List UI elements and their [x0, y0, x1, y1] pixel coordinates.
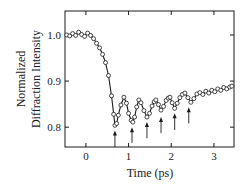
- data-series: [65, 30, 234, 127]
- arrow-head-icon: [187, 107, 191, 112]
- data-point-marker: [230, 84, 234, 88]
- data-point-marker: [116, 113, 120, 117]
- data-point-marker: [201, 92, 205, 96]
- x-tick-label: 0: [83, 150, 89, 162]
- data-point-marker: [142, 109, 146, 113]
- data-point-marker: [131, 120, 135, 124]
- x-axis-label: Time (ps): [127, 166, 174, 180]
- data-point-marker: [175, 101, 179, 105]
- arrow-head-icon: [113, 130, 117, 135]
- data-point-marker: [95, 41, 99, 45]
- data-point-marker: [92, 37, 96, 41]
- data-point-marker: [159, 108, 163, 112]
- arrow-head-icon: [145, 122, 149, 127]
- data-point-marker: [154, 98, 158, 102]
- y-axis-label: Normalized Diffraction Intensity: [14, 30, 43, 128]
- data-point-marker: [168, 95, 172, 99]
- data-point-marker: [107, 74, 111, 78]
- data-point-marker: [122, 95, 126, 99]
- data-point-marker: [162, 104, 166, 108]
- y-axis-ticks: 0.80.91.0: [47, 29, 234, 133]
- y-axis-label-line-1: Normalized: [14, 51, 28, 108]
- data-point-marker: [148, 111, 152, 115]
- diffraction-chart: 0123 0.80.91.0 Time (ps) Normalized Diff…: [0, 0, 244, 188]
- arrow-head-icon: [159, 117, 163, 122]
- data-point-marker: [124, 101, 128, 105]
- data-point-marker: [183, 91, 187, 95]
- data-point-marker: [101, 52, 105, 56]
- y-tick-label: 0.9: [47, 75, 61, 87]
- data-point-marker: [115, 121, 119, 125]
- x-tick-label: 3: [211, 150, 217, 162]
- data-point-marker: [74, 33, 78, 37]
- y-tick-label: 1.0: [47, 29, 61, 41]
- data-point-marker: [173, 106, 177, 110]
- data-point-marker: [119, 103, 123, 107]
- chart-svg: 0123 0.80.91.0 Time (ps) Normalized Diff…: [0, 0, 244, 188]
- data-point-marker: [192, 97, 196, 101]
- data-point-marker: [104, 61, 108, 65]
- data-point-marker: [145, 115, 149, 119]
- data-point-marker: [112, 112, 116, 116]
- x-tick-label: 2: [169, 150, 175, 162]
- arrow-head-icon: [173, 113, 177, 118]
- data-point-marker: [110, 94, 114, 98]
- arrow-head-icon: [130, 127, 134, 132]
- y-axis-label-line-2: Diffraction Intensity: [29, 30, 43, 128]
- data-point-marker: [189, 100, 193, 104]
- data-point-marker: [186, 96, 190, 100]
- y-tick-label: 0.8: [47, 121, 61, 133]
- data-point-marker: [150, 104, 154, 108]
- x-tick-label: 1: [126, 150, 132, 162]
- data-point-marker: [83, 34, 87, 38]
- data-point-marker: [133, 115, 137, 119]
- data-point-marker: [127, 111, 131, 115]
- data-point-marker: [170, 101, 174, 105]
- data-point-marker: [98, 46, 102, 50]
- plot-frame: [65, 11, 234, 147]
- data-point-marker: [156, 103, 160, 107]
- data-point-marker: [89, 33, 93, 37]
- plot-border: [65, 11, 234, 147]
- data-point-marker: [139, 101, 143, 105]
- x-axis-ticks: 0123: [83, 11, 217, 162]
- data-point-marker: [135, 105, 139, 109]
